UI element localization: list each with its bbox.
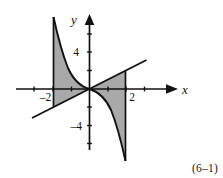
x-tick-label-neg2: –2	[39, 91, 52, 103]
y-axis-label: y	[69, 12, 77, 27]
y-axis	[85, 14, 95, 150]
figure-caption: (6–1)	[192, 162, 218, 174]
x-axis-label: x	[181, 82, 188, 97]
y-tick-label-neg4: –4	[70, 120, 83, 132]
shaded-region-left	[54, 17, 90, 107]
figure-container: x y –2 2 4 –4 (6–1)	[0, 0, 223, 178]
y-tick-label-pos4: 4	[73, 46, 79, 58]
graph-canvas: x y –2 2 4 –4	[0, 0, 223, 178]
shaded-region-right	[90, 71, 126, 161]
x-tick-label-pos2: 2	[129, 91, 135, 103]
